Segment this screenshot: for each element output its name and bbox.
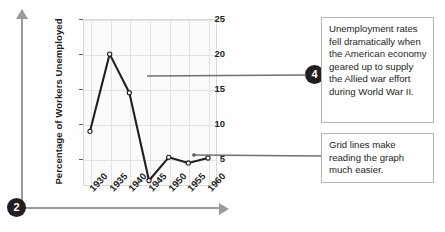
leader-line-callout-2	[194, 155, 321, 156]
callout-box-grid-lines[interactable]: Grid lines make reading the graph much e…	[321, 133, 434, 183]
callout-text-grid-lines: Grid lines make reading the graph much e…	[329, 139, 427, 177]
callout-text-war-effort: Unemployment rates fell dramatically whe…	[329, 23, 427, 99]
figure-canvas: 2 4 Percentage of Workers Unemployed 252…	[0, 0, 445, 232]
callout-box-war-effort[interactable]: Unemployment rates fell dramatically whe…	[321, 17, 434, 123]
leader-line-callout-1	[147, 75, 306, 76]
